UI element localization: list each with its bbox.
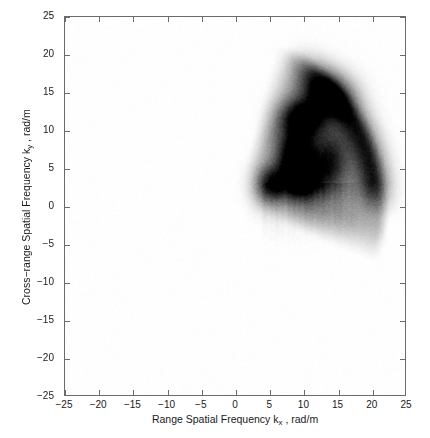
x-tick-label: 25 (386, 399, 426, 410)
x-tick (99, 390, 100, 395)
x-tick (373, 390, 374, 395)
y-tick (65, 207, 70, 208)
x-tick (270, 17, 271, 22)
x-tick (99, 17, 100, 22)
y-tick (400, 169, 405, 170)
axis-title-text: Range Spatial Frequency k (152, 413, 279, 425)
axis-title-units: , rad/m (20, 109, 32, 145)
x-tick (304, 17, 305, 22)
x-tick (304, 390, 305, 395)
y-tick (400, 93, 405, 94)
x-tick (236, 390, 237, 395)
y-tick (65, 245, 70, 246)
x-tick (168, 17, 169, 22)
x-tick (373, 17, 374, 22)
y-tick (65, 283, 70, 284)
axis-title-units: , rad/m (283, 413, 319, 425)
x-tick (168, 390, 169, 395)
y-tick-label: −25 (0, 390, 54, 401)
y-tick (65, 321, 70, 322)
axis-title-text: Cross−range Spatial Frequency k (20, 149, 32, 305)
x-tick (270, 390, 271, 395)
x-tick (133, 390, 134, 395)
x-axis-title: Range Spatial Frequency kx , rad/m (64, 413, 406, 427)
kspace-heatmap (65, 17, 405, 395)
x-tick (339, 17, 340, 22)
y-tick (65, 169, 70, 170)
y-tick (65, 131, 70, 132)
y-tick (400, 207, 405, 208)
y-tick (400, 283, 405, 284)
x-tick (202, 17, 203, 22)
plot-axes (64, 16, 406, 396)
figure-canvas: −25−20−15−10−505101520252520151050−5−10−… (0, 0, 430, 438)
x-tick (236, 17, 237, 22)
y-tick (400, 131, 405, 132)
y-tick (65, 93, 70, 94)
x-tick (65, 390, 66, 395)
y-tick (400, 17, 405, 18)
y-tick (65, 17, 70, 18)
x-tick (202, 390, 203, 395)
x-tick (339, 390, 340, 395)
y-tick-label: 25 (0, 10, 54, 21)
x-tick (133, 17, 134, 22)
y-axis-title: Cross−range Spatial Frequency ky , rad/m (20, 57, 34, 357)
y-tick (400, 321, 405, 322)
y-tick (400, 245, 405, 246)
y-tick (400, 55, 405, 56)
y-tick (400, 359, 405, 360)
y-tick (65, 55, 70, 56)
y-tick (65, 359, 70, 360)
y-subscript: y (25, 145, 34, 149)
